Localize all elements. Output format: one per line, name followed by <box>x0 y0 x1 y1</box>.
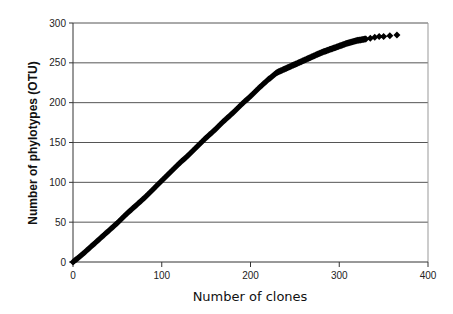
series-markers <box>70 31 401 265</box>
tick-labels: 0501001502002503000100200300400 <box>49 18 436 282</box>
x-tick-label: 100 <box>153 270 170 281</box>
x-tick-label: 200 <box>242 270 259 281</box>
y-tick-label: 300 <box>49 18 66 29</box>
y-tick-label: 250 <box>49 57 66 68</box>
gridlines <box>73 23 428 222</box>
axes <box>69 23 428 267</box>
x-axis-label: Number of clones <box>193 289 308 304</box>
y-tick-label: 50 <box>55 217 67 228</box>
y-tick-label: 0 <box>60 257 66 268</box>
rarefaction-chart: 0501001502002503000100200300400 Number o… <box>0 0 453 314</box>
data-points <box>70 31 401 265</box>
x-tick-label: 300 <box>331 270 348 281</box>
y-tick-label: 150 <box>49 137 66 148</box>
x-tick-label: 0 <box>70 270 76 281</box>
y-axis-label: Number of phylotypes (OTU) <box>26 61 40 224</box>
y-tick-label: 100 <box>49 177 66 188</box>
x-tick-label: 400 <box>420 270 437 281</box>
y-tick-label: 200 <box>49 97 66 108</box>
